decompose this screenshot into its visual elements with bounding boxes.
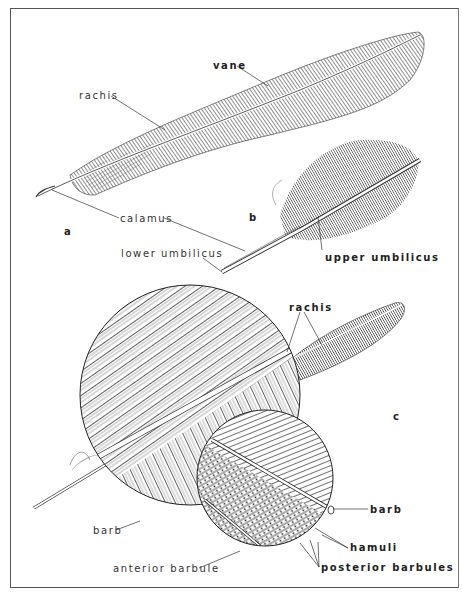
label-rachis-top: rachis: [79, 90, 119, 101]
panel-label-a: a: [64, 226, 71, 237]
label-hamuli: hamuli: [350, 542, 398, 553]
label-anterior-barbule: anterior barbule: [113, 563, 220, 574]
label-vane: vane: [213, 60, 247, 71]
panel-label-b: b: [249, 212, 256, 223]
label-posterior-barbules: posterior barbules: [321, 562, 454, 573]
label-lower-umbilicus: lower umbilicus: [121, 248, 223, 259]
label-barb-right: barb: [370, 504, 402, 515]
label-rachis-bottom: rachis: [289, 302, 333, 313]
label-barb-left: barb: [93, 525, 122, 536]
panel-label-c: c: [393, 411, 399, 422]
label-calamus: calamus: [120, 213, 173, 224]
label-upper-umbilicus: upper umbilicus: [325, 252, 440, 263]
feather-anatomy-figure: vane rachis calamus a b lower umbilicus …: [0, 0, 463, 593]
